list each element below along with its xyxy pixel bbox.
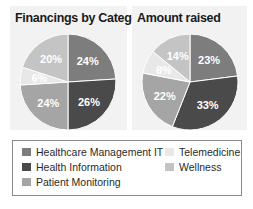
slice-label: 26%	[78, 96, 100, 108]
chart-panel-financings: Financings by Category 24%26%24%6%20%	[10, 6, 127, 130]
legend-swatch	[22, 148, 31, 156]
slice-label: 20%	[40, 53, 62, 65]
pie-chart-financings: 24%26%24%6%20%	[18, 32, 118, 132]
chart-title: Financings by Category	[15, 11, 150, 25]
legend-swatch	[165, 148, 174, 156]
legend-label: Telemedicine	[179, 146, 240, 158]
legend-label: Patient Monitoring	[36, 176, 121, 188]
chart-panel-amount-raised: Amount raised 23%33%22%8%14%	[132, 6, 247, 130]
legend-label: Health Information	[36, 161, 122, 173]
legend-label: Healthcare Management IT	[36, 146, 163, 158]
legend-swatch	[22, 178, 31, 186]
legend-item: Patient Monitoring	[22, 176, 121, 188]
chart-legend: Healthcare Management IT Health Informat…	[12, 140, 242, 196]
legend-item: Wellness	[165, 161, 221, 173]
legend-item: Healthcare Management IT	[22, 146, 163, 158]
slice-label: 22%	[154, 90, 176, 102]
legend-swatch	[165, 163, 174, 171]
slice-label: 14%	[167, 50, 189, 62]
legend-item: Telemedicine	[165, 146, 240, 158]
slice-label: 24%	[77, 55, 99, 67]
legend-label: Wellness	[179, 161, 221, 173]
slice-label: 33%	[197, 99, 219, 111]
slice-label: 23%	[198, 54, 220, 66]
pie-chart-amount-raised: 23%33%22%8%14%	[140, 32, 240, 132]
chart-title: Amount raised	[137, 11, 221, 25]
slice-label: 24%	[37, 97, 59, 109]
legend-item: Health Information	[22, 161, 122, 173]
legend-swatch	[22, 163, 31, 171]
